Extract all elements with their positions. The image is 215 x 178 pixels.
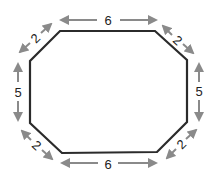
label-top: 6 [104, 13, 111, 28]
dimension-right: 5 [195, 64, 202, 120]
octagon-shape [30, 31, 187, 153]
octagon-diagram: 6 2 5 2 6 2 5 2 [0, 0, 215, 178]
dimension-bottom-right: 2 [167, 130, 196, 158]
arrow-bottom-left-b [42, 150, 52, 159]
arrow-top-left-a [41, 24, 51, 33]
label-left: 5 [14, 85, 21, 100]
label-bottom: 6 [104, 157, 111, 172]
dimension-bottom: 6 [62, 157, 156, 172]
arrow-bottom-right-b [167, 149, 176, 158]
arrow-bottom-left-a [22, 131, 31, 140]
dimension-top-right: 2 [163, 26, 193, 53]
arrow-bottom-right-a [186, 130, 196, 139]
dimension-bottom-left: 2 [22, 131, 52, 159]
label-right: 5 [195, 84, 202, 99]
arrow-top-right-a [163, 26, 172, 35]
dimension-top: 6 [61, 13, 156, 28]
arrow-top-left-b [20, 43, 30, 52]
arrow-top-right-b [183, 44, 193, 53]
dimension-left: 5 [14, 64, 21, 120]
dimension-top-left: 2 [20, 24, 51, 52]
